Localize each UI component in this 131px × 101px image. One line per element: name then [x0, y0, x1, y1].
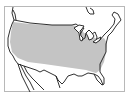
- range-map: Shaded range covering most of the contig…: [0, 0, 131, 101]
- map-canvas: [0, 0, 131, 101]
